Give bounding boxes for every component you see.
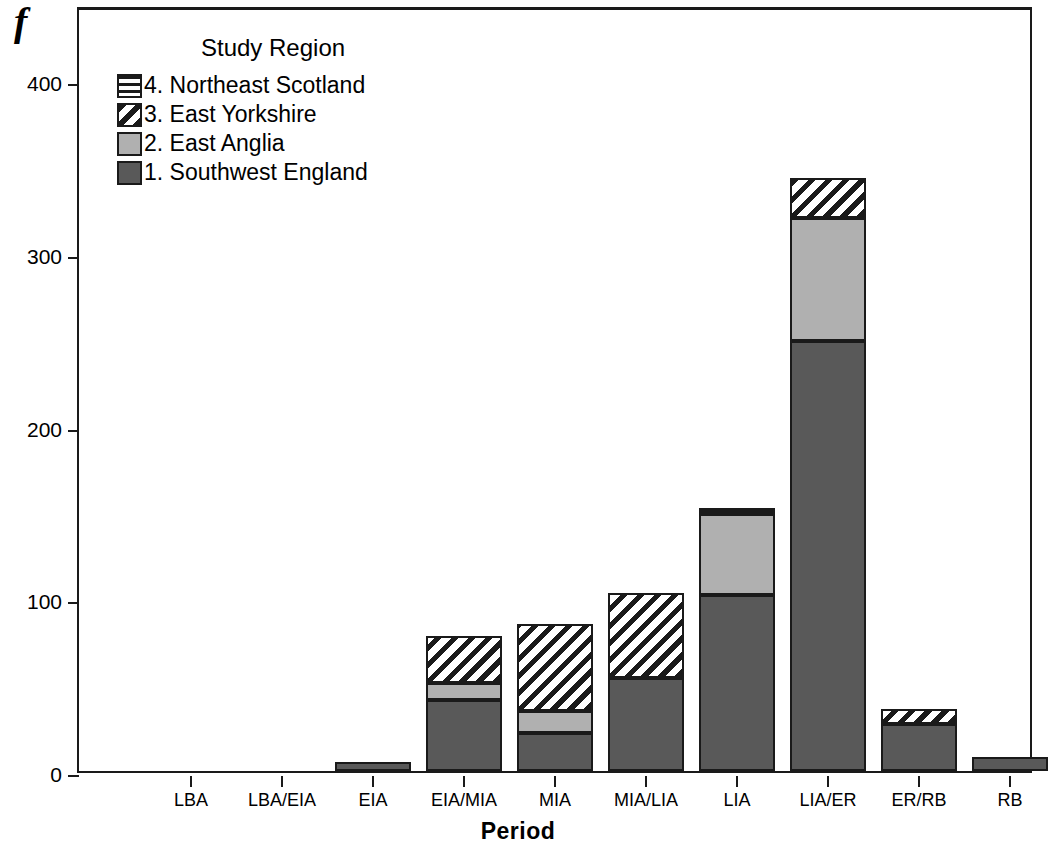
- x-tick-mark: [918, 776, 920, 787]
- bar-segment[interactable]: [790, 218, 866, 341]
- plot-area: 0100200300400 LBALBA/EIAEIAEIA/MIAMIAMIA…: [79, 10, 1030, 771]
- bar-segment[interactable]: [335, 762, 411, 771]
- bar-segment[interactable]: [517, 711, 593, 733]
- bar-stack[interactable]: [699, 508, 775, 771]
- x-tick-label: RB: [940, 790, 1052, 811]
- legend-swatch-east-yorkshire: [117, 103, 142, 127]
- bar-segment[interactable]: [699, 595, 775, 771]
- legend-swatch-southwest-england: [117, 161, 142, 185]
- bar-segment[interactable]: [699, 508, 775, 513]
- y-tick-label: 400: [27, 72, 62, 96]
- legend-swatch-east-anglia: [117, 132, 142, 156]
- legend-entry-label: 2. East Anglia: [144, 130, 285, 157]
- x-tick-mark: [645, 776, 647, 787]
- bar-segment[interactable]: [426, 636, 502, 683]
- x-tick-mark: [554, 776, 556, 787]
- bar-stack[interactable]: [972, 757, 1048, 771]
- legend-entries: 4. Northeast Scotland3. East Yorkshire2.…: [117, 72, 368, 186]
- bar-segment[interactable]: [790, 341, 866, 771]
- y-tick-label: 0: [50, 763, 62, 787]
- bar-segment[interactable]: [426, 700, 502, 771]
- x-axis-title: Period: [0, 818, 1036, 845]
- legend-entry-label: 4. Northeast Scotland: [144, 72, 365, 99]
- bar-stack[interactable]: [426, 636, 502, 771]
- legend-title: Study Region: [201, 34, 368, 62]
- y-tick-label: 200: [27, 418, 62, 442]
- bar-segment[interactable]: [608, 593, 684, 678]
- bar-segment[interactable]: [972, 757, 1048, 771]
- legend-entry[interactable]: 4. Northeast Scotland: [117, 72, 368, 99]
- bar-stack[interactable]: [335, 762, 411, 771]
- legend-swatch-northeast-scotland: [117, 74, 142, 98]
- legend-entry[interactable]: 1. Southwest England: [117, 159, 368, 186]
- panel-letter: f: [14, 2, 27, 42]
- x-tick-mark: [1009, 776, 1011, 787]
- bar-stack[interactable]: [608, 593, 684, 771]
- bar-segment[interactable]: [426, 683, 502, 700]
- bar-segment[interactable]: [517, 733, 593, 771]
- y-tick-mark: [68, 430, 79, 432]
- bar-stack[interactable]: [790, 178, 866, 771]
- y-tick-mark: [68, 257, 79, 259]
- legend-entry[interactable]: 2. East Anglia: [117, 130, 368, 157]
- plot-frame: 0100200300400 LBALBA/EIAEIAEIA/MIAMIAMIA…: [77, 7, 1032, 773]
- x-tick-mark: [281, 776, 283, 787]
- y-tick-label: 100: [27, 590, 62, 614]
- x-tick-mark: [190, 776, 192, 787]
- bar-segment[interactable]: [790, 178, 866, 218]
- x-tick-mark: [372, 776, 374, 787]
- bar-segment[interactable]: [608, 678, 684, 771]
- y-tick-label: 300: [27, 245, 62, 269]
- legend: Study Region 4. Northeast Scotland3. Eas…: [117, 34, 368, 188]
- bar-segment[interactable]: [699, 514, 775, 595]
- bar-segment[interactable]: [881, 724, 957, 771]
- legend-entry-label: 3. East Yorkshire: [144, 101, 317, 128]
- y-tick-mark: [68, 84, 79, 86]
- bar-stack[interactable]: [517, 624, 593, 771]
- x-tick-mark: [736, 776, 738, 787]
- legend-entry[interactable]: 3. East Yorkshire: [117, 101, 368, 128]
- y-tick-mark: [68, 602, 79, 604]
- legend-entry-label: 1. Southwest England: [144, 159, 368, 186]
- x-tick-mark: [827, 776, 829, 787]
- bar-stack[interactable]: [881, 709, 957, 771]
- bar-segment[interactable]: [881, 709, 957, 725]
- y-tick-mark: [68, 775, 79, 777]
- x-tick-mark: [463, 776, 465, 787]
- bar-segment[interactable]: [517, 624, 593, 710]
